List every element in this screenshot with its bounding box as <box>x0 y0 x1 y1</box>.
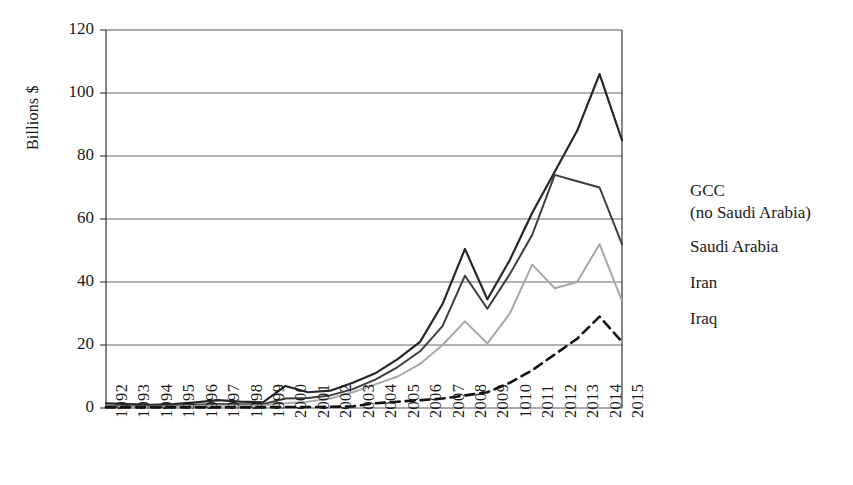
x-axis-tick-label: 2013 <box>583 384 603 418</box>
x-axis-tick-label: 1999 <box>269 384 289 418</box>
line-chart: Billions $ GCC (no Saudi Arabia)Saudi Ar… <box>0 0 853 485</box>
x-axis-tick-label: 2006 <box>426 384 446 418</box>
x-axis-tick-label: 2011 <box>538 384 558 418</box>
x-axis-tick-label: 2015 <box>628 384 648 418</box>
series-line-gcc <box>106 74 622 405</box>
y-axis-tick-label: 40 <box>48 271 94 291</box>
x-axis-tick-label: 2009 <box>493 384 513 418</box>
series-line-iran <box>106 244 622 407</box>
x-axis-tick-label: 2002 <box>336 384 356 418</box>
x-axis-tick-label: 2005 <box>404 384 424 418</box>
x-axis-tick-label: 1997 <box>224 384 244 418</box>
x-axis-tick-label: 1992 <box>112 384 132 418</box>
x-axis-tick-label: 2000 <box>291 384 311 418</box>
x-axis-tick-label: 1996 <box>202 384 222 418</box>
x-axis-tick-label: 2014 <box>606 384 626 418</box>
legend-item-gcc[interactable]: GCC (no Saudi Arabia) <box>645 180 850 224</box>
legend-item-iraq[interactable]: Iraq <box>645 308 850 330</box>
legend-item-saudi-arabia[interactable]: Saudi Arabia <box>645 236 850 258</box>
x-axis-tick-label: 1994 <box>157 384 177 418</box>
legend-item-iran[interactable]: Iran <box>645 272 850 294</box>
x-axis-tick-label: 2004 <box>381 384 401 418</box>
x-axis-tick-label: 2003 <box>359 384 379 418</box>
legend-label: Saudi Arabia <box>690 236 850 258</box>
x-axis-tick-label: 1010 <box>516 384 536 418</box>
legend-label: GCC (no Saudi Arabia) <box>690 180 850 224</box>
x-axis-tick-label: 2012 <box>561 384 581 418</box>
x-axis-tick-label: 1998 <box>247 384 267 418</box>
legend-label: Iran <box>690 272 850 294</box>
y-axis-tick-label: 0 <box>48 397 94 417</box>
y-axis-tick-label: 80 <box>48 145 94 165</box>
y-axis-tick-label: 60 <box>48 208 94 228</box>
legend-label: Iraq <box>690 308 850 330</box>
x-axis-tick-label: 1995 <box>179 384 199 418</box>
x-axis-tick-label: 2008 <box>471 384 491 418</box>
chart-legend: GCC (no Saudi Arabia)Saudi ArabiaIranIra… <box>645 180 850 332</box>
x-axis-tick-label: 1993 <box>134 384 154 418</box>
series-line-saudi-arabia <box>106 175 622 406</box>
x-axis-tick-label: 2007 <box>449 384 469 418</box>
y-axis-tick-label: 100 <box>48 82 94 102</box>
y-axis-tick-label: 20 <box>48 334 94 354</box>
y-axis-tick-label: 120 <box>48 19 94 39</box>
x-axis-tick-label: 2001 <box>314 384 334 418</box>
